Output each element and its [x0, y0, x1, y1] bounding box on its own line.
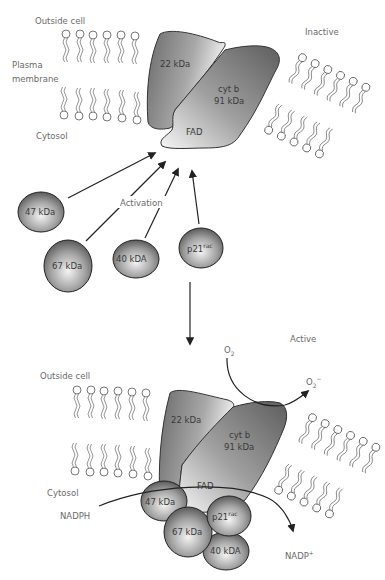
right-membrane-2: [273, 412, 381, 525]
cytosol-label: Cytosol: [36, 131, 68, 141]
membrane-label: membrane: [12, 74, 59, 84]
bound-factor-p67: 67 kDa: [164, 507, 212, 557]
superoxide-label: O2−: [306, 375, 322, 389]
cytb-label-2-line2: 91 kDa: [224, 442, 254, 452]
o2-label: O2: [224, 345, 235, 357]
outside-cell-label-2: Outside cell: [40, 371, 90, 381]
left-membrane: [60, 30, 141, 124]
arrow-p47: [68, 153, 155, 198]
nadph-label: NADPH: [60, 511, 90, 521]
bound-factor-p21rac: p21rac: [207, 496, 251, 536]
active-label: Active: [290, 334, 316, 344]
plasma-label: Plasma: [12, 60, 43, 70]
outside-cell-label: Outside cell: [35, 16, 85, 26]
nadp-label: NADP+: [285, 549, 314, 561]
fad-label-2: FAD: [197, 481, 214, 491]
factor-p21rac: p21rac: [179, 228, 223, 268]
fad-label: FAD: [186, 127, 203, 137]
svg-text:47 kDa: 47 kDa: [25, 207, 55, 217]
svg-text:40 kDA: 40 kDA: [210, 546, 241, 556]
activation-label: Activation: [120, 198, 163, 208]
cytb-label-2-line1: cyt b: [229, 430, 250, 440]
p22-label-2: 22 kDa: [171, 415, 201, 425]
active-panel: Active Outside cell Cytosol: [40, 334, 381, 570]
cytb-label-line1: cyt b: [218, 84, 239, 94]
superoxide-arrow: [227, 358, 308, 406]
nadph-oxidase-diagram: Outside cell Inactive Plasma membrane Cy…: [0, 0, 385, 580]
cytb-label-line2: 91 kDa: [214, 96, 244, 106]
factor-p40: 40 kDA: [113, 240, 159, 278]
svg-text:47 kDa: 47 kDa: [145, 497, 175, 507]
right-membrane: [263, 52, 371, 165]
arrow-p21: [192, 171, 199, 224]
p22-label: 22 kDa: [160, 59, 190, 69]
inactive-panel: Outside cell Inactive Plasma membrane Cy…: [12, 16, 371, 292]
left-membrane-2: [71, 386, 152, 480]
svg-text:40 kDA: 40 kDA: [116, 254, 147, 264]
cytosol-label-2: Cytosol: [47, 488, 79, 498]
factor-p67: 67 kDa: [44, 240, 92, 292]
svg-text:67 kDa: 67 kDa: [52, 261, 82, 271]
svg-text:67 kDa: 67 kDa: [172, 527, 202, 537]
factor-p47: 47 kDa: [18, 192, 64, 232]
inactive-label: Inactive: [305, 27, 339, 37]
